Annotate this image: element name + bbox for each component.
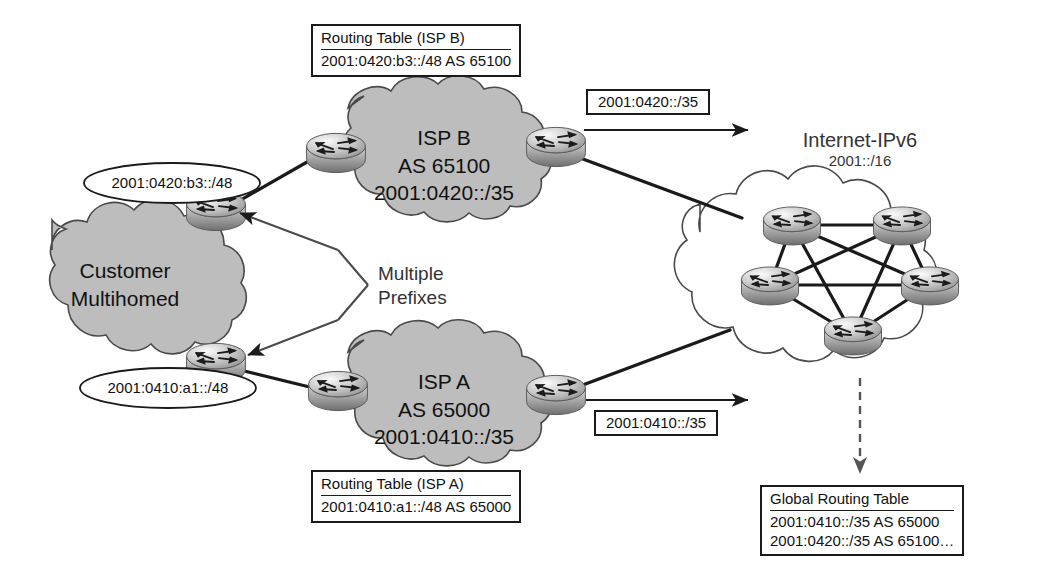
router-isp-a-ingress xyxy=(309,371,368,410)
routing-table-isp-b-header: Routing Table (ISP B) xyxy=(321,29,511,50)
router-core-5 xyxy=(825,317,882,355)
internet-cloud-label-line2: 2001::/16 xyxy=(748,152,972,171)
isp-b-cloud-line2: AS 65100 xyxy=(360,152,528,180)
multiple-prefixes-line1: Multiple xyxy=(378,262,447,286)
isp-b-cloud-line3: 2001:0420::/35 xyxy=(360,179,528,207)
diagram-canvas: Routing Table (ISP B) 2001:0420:b3::/48 … xyxy=(0,0,1060,566)
internet-cloud-label: Internet-IPv6 xyxy=(748,128,972,153)
router-core-2 xyxy=(874,207,931,245)
routing-table-global: Global Routing Table 2001:0410::/35 AS 6… xyxy=(760,485,964,556)
isp-b-cloud-label: ISP B AS 65100 2001:0420::/35 xyxy=(360,124,528,207)
isp-a-cloud-line3: 2001:0410::/35 xyxy=(360,423,528,451)
prefix-label-lower: 2001:0410:a1::/48 xyxy=(80,379,256,396)
advert-box-isp-b-text: 2001:0420::/35 xyxy=(598,93,698,110)
advert-box-isp-a: 2001:0410::/35 xyxy=(594,410,718,436)
routing-table-global-header: Global Routing Table xyxy=(770,490,954,511)
multiple-prefixes-line2: Prefixes xyxy=(378,286,447,310)
router-core-3 xyxy=(742,267,799,305)
routing-table-isp-b-row-0: 2001:0420:b3::/48 AS 65100 xyxy=(321,52,511,71)
router-core-1 xyxy=(764,207,821,245)
router-isp-a-egress xyxy=(527,375,586,414)
isp-a-cloud-line1: ISP A xyxy=(360,368,528,396)
routing-table-isp-b: Routing Table (ISP B) 2001:0420:b3::/48 … xyxy=(311,24,521,77)
routing-table-isp-a-header: Routing Table (ISP A) xyxy=(321,475,511,496)
isp-a-cloud-label: ISP A AS 65000 2001:0410::/35 xyxy=(360,368,528,451)
router-isp-b-ingress xyxy=(307,133,366,172)
customer-cloud-line2: Multihomed xyxy=(32,285,218,313)
routing-table-isp-a-row-0: 2001:0410:a1::/48 AS 65000 xyxy=(321,498,511,517)
multiple-prefixes-pointer xyxy=(240,213,368,355)
internet-cloud xyxy=(674,166,937,361)
routing-table-isp-a: Routing Table (ISP A) 2001:0410:a1::/48 … xyxy=(311,470,521,523)
multiple-prefixes-label: Multiple Prefixes xyxy=(378,262,447,310)
routing-table-global-row-1: 2001:0420::/35 AS 65100… xyxy=(770,532,954,551)
customer-cloud-line1: Customer xyxy=(32,257,218,285)
advert-box-isp-b: 2001:0420::/35 xyxy=(586,89,710,115)
router-isp-b-egress xyxy=(527,127,586,166)
router-core-4 xyxy=(902,267,959,305)
isp-b-cloud-line1: ISP B xyxy=(360,124,528,152)
internet-cloud-prefix: 2001::/16 xyxy=(748,152,972,171)
routing-table-global-row-0: 2001:0410::/35 AS 65000 xyxy=(770,513,954,532)
prefix-label-upper: 2001:0420:b3::/48 xyxy=(84,174,260,191)
advert-box-isp-a-text: 2001:0410::/35 xyxy=(606,414,706,431)
customer-cloud-label: Customer Multihomed xyxy=(32,257,218,312)
isp-a-cloud-line2: AS 65000 xyxy=(360,396,528,424)
internet-cloud-label-line1: Internet-IPv6 xyxy=(748,128,972,153)
